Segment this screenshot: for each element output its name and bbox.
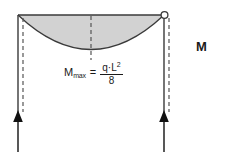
formula-equals: = [90, 67, 96, 78]
formula-numerator: q·L2 [100, 61, 122, 74]
formula-numerator-exponent: 2 [117, 61, 121, 68]
formula-lhs: Mmax [64, 67, 86, 78]
formula-denominator: 8 [109, 75, 115, 86]
max-moment-formula: Mmax = q·L2 8 [64, 60, 123, 85]
formula-lhs-main: M [64, 67, 73, 78]
bending-moment-diagram: Mmax = q·L2 8 M [0, 0, 227, 159]
hinge-circle-icon [161, 12, 168, 19]
formula-fraction: q·L2 8 [100, 61, 122, 86]
formula-lhs-subscript: max [73, 72, 86, 79]
moment-diagram-label: M [196, 40, 207, 53]
left-reaction-arrow-icon [13, 110, 23, 152]
right-reaction-arrow-icon [159, 110, 169, 152]
